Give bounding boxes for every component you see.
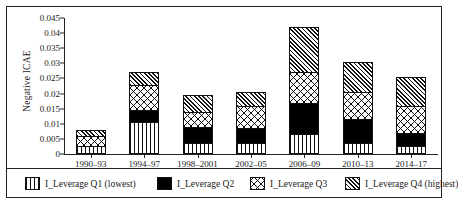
bar-segment[interactable] <box>236 143 266 154</box>
x-tick-mark <box>144 154 145 158</box>
y-tick-label: 0.045 <box>40 14 60 23</box>
bar-segment[interactable] <box>289 27 319 72</box>
bar-series-container <box>64 18 438 154</box>
bar-segment[interactable] <box>183 112 213 127</box>
bar-segment[interactable] <box>396 146 426 154</box>
bar-segment[interactable] <box>236 128 266 143</box>
bar-segment[interactable] <box>236 106 266 129</box>
x-tick-mark <box>198 154 199 158</box>
legend-label: I_Leverage Q2 <box>177 179 234 189</box>
y-axis-label: Negative ICAE <box>10 30 26 140</box>
bar-segment[interactable] <box>289 134 319 154</box>
x-tick-mark <box>91 154 92 158</box>
bar-segment[interactable] <box>289 72 319 102</box>
y-tick-label: 0.005 <box>40 134 60 143</box>
x-tick-mark <box>304 154 305 158</box>
y-axis-ticks: 0.0450.040.0350.030.0250.020.0150.010.00… <box>28 6 64 166</box>
bar-segment[interactable] <box>343 119 373 143</box>
x-tick-mark <box>411 154 412 158</box>
legend-item[interactable]: I_Leverage Q2 <box>157 177 234 190</box>
legend-label: I_Leverage Q4 (highest) <box>365 179 458 189</box>
bar-segment[interactable] <box>129 110 159 122</box>
bar-segment[interactable] <box>396 77 426 106</box>
y-tick-label: 0.04 <box>44 29 60 38</box>
bar-segment[interactable] <box>343 143 373 154</box>
x-tick-mark <box>358 154 359 158</box>
legend-swatch-solid-black-icon <box>157 177 172 190</box>
y-tick-label: 0.01 <box>44 119 60 128</box>
bar-segment[interactable] <box>129 72 159 84</box>
bar-segment[interactable] <box>343 92 373 119</box>
bar-segment[interactable] <box>129 85 159 111</box>
bar-segment[interactable] <box>289 103 319 135</box>
legend-swatch-diagonal-hatch-icon <box>345 177 360 190</box>
bar-segment[interactable] <box>76 130 106 136</box>
bar-segment[interactable] <box>183 143 213 154</box>
bar-segment[interactable] <box>76 146 106 154</box>
y-tick-label: 0.03 <box>44 59 60 68</box>
legend-swatch-crosshatch-icon <box>250 177 265 190</box>
y-tick-label: 0.025 <box>40 74 60 83</box>
y-tick-label: 0.035 <box>40 44 60 53</box>
legend-label: I_Leverage Q1 (lowest) <box>45 179 136 189</box>
bar-segment[interactable] <box>396 133 426 147</box>
bar-segment[interactable] <box>76 136 106 147</box>
bar-segment[interactable] <box>183 95 213 112</box>
legend-swatch-vertical-stripes-icon <box>25 177 40 190</box>
bar-segment[interactable] <box>396 106 426 133</box>
plot-area: Negative ICAE 0.0450.040.0350.030.0250.0… <box>6 6 442 166</box>
y-tick-label: 0.015 <box>40 104 60 113</box>
bar-segment[interactable] <box>343 62 373 92</box>
legend-item[interactable]: I_Leverage Q4 (highest) <box>345 177 458 190</box>
bar-segment[interactable] <box>183 127 213 144</box>
y-tick-label: 0.02 <box>44 89 60 98</box>
legend-item[interactable]: I_Leverage Q1 (lowest) <box>25 177 136 190</box>
x-tick-mark <box>251 154 252 158</box>
bar-segment[interactable] <box>236 92 266 106</box>
bar-segment[interactable] <box>129 122 159 154</box>
legend-label: I_Leverage Q3 <box>270 179 327 189</box>
legend-item[interactable]: I_Leverage Q3 <box>250 177 327 190</box>
chart-legend: I_Leverage Q1 (lowest)I_Leverage Q2I_Lev… <box>7 168 441 198</box>
